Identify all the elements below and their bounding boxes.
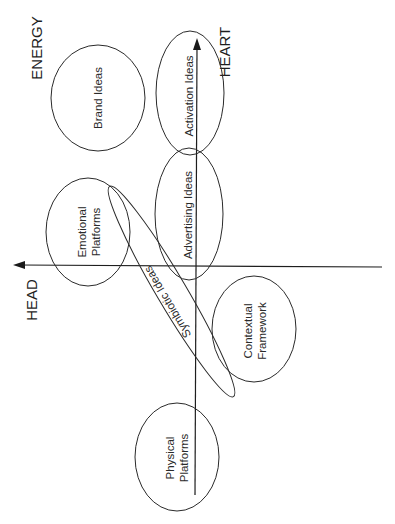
ellipse-brand-ideas: Brand Ideas [51,45,145,151]
ellipse-label: Activation Ideas [183,55,195,136]
ellipse-physical-platforms: Physical Platforms [135,403,219,511]
ellipse-activation-ideas: Activation Ideas [156,31,224,155]
arrow-up-icon [193,38,201,50]
ellipse-label: Brand Ideas [92,67,104,129]
axes [13,38,382,495]
ellipse-label-line-1: Physical [164,437,176,480]
horizontal-axis [20,265,382,267]
axis-label-head: HEAD [23,279,40,321]
ellipse-emotional-platforms: Emotional Platforms [46,178,130,286]
ellipse-label-line-2: Framework [256,302,268,360]
ellipse-label: Symbiotic Ideas [142,264,194,340]
positioning-diagram: ENERGY HEART HEAD Brand Ideas Activation… [0,0,395,524]
axis-label-heart: HEART [216,27,233,78]
ellipse-contextual-framework: Contextual Framework [212,276,296,382]
vertical-axis [195,46,197,495]
ellipse-label: Advertising Ideas [182,171,194,259]
ellipse-advertising-ideas: Advertising Ideas [155,148,223,280]
ellipse-label-line-2: Platforms [178,433,190,482]
axis-label-energy: ENERGY [28,16,45,79]
arrow-left-icon [13,261,25,269]
ellipse-label-line-1: Contextual [242,304,254,359]
ellipse-label-line-2: Platforms [90,207,102,256]
ellipse-label-line-1: Emotional [76,206,88,257]
